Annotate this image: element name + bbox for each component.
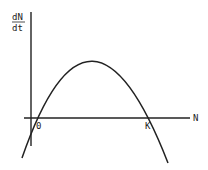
- y-axis-label-numerator: dN: [12, 12, 23, 22]
- growth-rate-diagram: dN dt 0 K N: [0, 0, 208, 170]
- origin-label: 0: [36, 121, 41, 131]
- growth-curve: [22, 61, 168, 163]
- y-axis-label-denominator: dt: [12, 23, 23, 33]
- x-axis-label: N: [193, 113, 198, 123]
- carrying-capacity-label: K: [145, 121, 151, 131]
